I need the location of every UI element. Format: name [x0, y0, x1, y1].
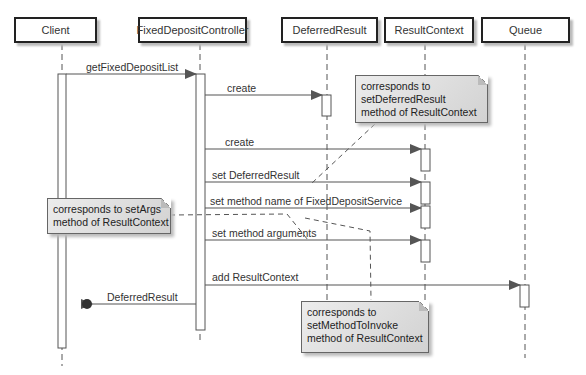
participant-label: Queue [509, 24, 542, 36]
resultcontext-activation-3 [421, 206, 430, 228]
resultcontext-activation-4 [421, 240, 430, 262]
note-line: corresponds to [307, 306, 423, 319]
note-line: corresponds to setArgs [53, 203, 165, 216]
note-setdeferredresult: corresponds to setDeferredResult method … [355, 75, 488, 123]
controller-activation [196, 74, 205, 330]
note-line: setMethodToInvoke [307, 319, 423, 332]
diagram-lines [0, 0, 586, 375]
participant-resultcontext: ResultContext [384, 17, 474, 43]
participant-label: FixedDepositController [137, 24, 249, 36]
participant-deferredresult: DeferredResult [281, 17, 378, 43]
participant-label: DeferredResult [293, 24, 367, 36]
sequence-diagram: Client FixedDepositController DeferredRe… [0, 0, 586, 375]
note-setargs: corresponds to setArgs method of ResultC… [47, 198, 171, 234]
participant-queue: Queue [481, 17, 570, 43]
participant-label: ResultContext [394, 24, 463, 36]
resultcontext-activation-2 [421, 182, 430, 204]
deferredresult-activation [322, 95, 331, 116]
participant-label: Client [41, 24, 69, 36]
msg-label-set-method-name: set method name of FixedDepositService [210, 195, 402, 207]
note-fold-icon [478, 75, 488, 85]
note-line: corresponds to [361, 80, 482, 93]
participant-fixeddepositcontroller: FixedDepositController [138, 17, 247, 43]
note-line: setDeferredResult [361, 93, 482, 106]
note-fold-icon [419, 301, 429, 311]
note-line: method of ResultContext [361, 106, 482, 119]
note-fold-icon [161, 198, 171, 208]
note-line: method of ResultContext [53, 216, 165, 229]
msg-label-create-deferredresult: create [227, 82, 256, 94]
note1-connector [312, 124, 375, 183]
msg-label-create-resultcontext: create [225, 136, 254, 148]
msg-label-set-deferredresult: set DeferredResult [212, 169, 300, 181]
msg-label-set-method-arguments: set method arguments [212, 227, 316, 239]
msg-label-return-deferredresult: DeferredResult [107, 291, 178, 303]
participant-client: Client [14, 17, 97, 43]
msg-label-add-resultcontext: add ResultContext [212, 271, 298, 283]
note-line: method of ResultContext [307, 332, 423, 345]
msg-label-getfixeddepositlist: getFixedDepositList [86, 61, 178, 73]
resultcontext-activation-1 [421, 149, 430, 171]
note-setmethodtoinvoke: corresponds to setMethodToInvoke method … [301, 301, 429, 353]
lost-found-circle-icon [82, 299, 92, 309]
queue-activation [520, 285, 529, 307]
